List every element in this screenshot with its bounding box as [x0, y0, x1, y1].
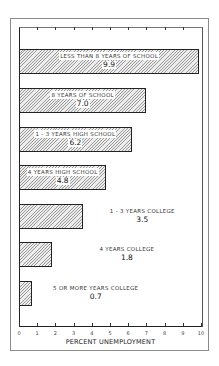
x-tick-mark: [165, 323, 166, 326]
category-label: LESS THAN 8 YEARS OF SCHOOL: [59, 52, 159, 60]
value-label: 6.2: [68, 139, 82, 147]
category-label: 4 YEARS HIGH SCHOOL: [27, 168, 99, 176]
x-tick-label: 10: [198, 330, 204, 336]
value-label: 3.5: [135, 216, 149, 224]
x-tick-mark: [201, 323, 202, 326]
bar-label: 1 - 3 YEARS COLLEGE3.5: [85, 207, 200, 224]
category-label: 1 - 3 YEARS COLLEGE: [109, 207, 176, 215]
bar: [19, 242, 52, 267]
x-tick-label: 1: [36, 330, 39, 336]
x-tick-mark: [92, 323, 93, 326]
category-label: 5 OR MORE YEARS COLLEGE: [52, 284, 139, 292]
x-tick-mark: [128, 323, 129, 326]
x-tick-mark-top: [128, 27, 129, 30]
bar-label: 4 YEARS HIGH SCHOOL4.8: [19, 168, 106, 185]
x-tick-label: 4: [90, 330, 93, 336]
x-tick-label: 8: [163, 330, 166, 336]
x-tick-mark: [183, 323, 184, 326]
category-label: 8 YEARS OF SCHOOL: [50, 91, 114, 99]
x-tick-mark-top: [165, 27, 166, 30]
x-tick-mark: [19, 323, 20, 326]
x-tick-mark-top: [74, 27, 75, 30]
bar: [19, 281, 32, 306]
x-tick-mark-top: [183, 27, 184, 30]
category-label: 1 - 3 YEARS HIGH SCHOOL: [34, 130, 116, 138]
bar-label: 4 YEARS COLLEGE1.8: [54, 245, 200, 262]
bar-label: LESS THAN 8 YEARS OF SCHOOL9.9: [19, 52, 199, 69]
value-label: 1.8: [120, 254, 134, 262]
x-tick-label: 9: [181, 330, 184, 336]
x-tick-mark-top: [110, 27, 111, 30]
bar: [19, 204, 83, 229]
x-tick-label: 3: [72, 330, 75, 336]
x-axis-line: [19, 326, 202, 327]
x-tick-mark-top: [92, 27, 93, 30]
x-tick-label: 0: [17, 330, 20, 336]
value-label: 0.7: [89, 293, 103, 301]
x-tick-mark: [146, 323, 147, 326]
x-tick-label: 7: [145, 330, 148, 336]
category-label: 4 YEARS COLLEGE: [98, 245, 155, 253]
value-label: 9.9: [102, 61, 116, 69]
x-axis-title: PERCENT UNEMPLOYMENT: [19, 338, 202, 346]
x-tick-mark: [74, 323, 75, 326]
x-tick-label: 2: [54, 330, 57, 336]
value-label: 7.0: [76, 100, 90, 108]
x-tick-label: 5: [108, 330, 111, 336]
x-tick-mark-top: [37, 27, 38, 30]
x-tick-label: 6: [127, 330, 130, 336]
bar-label: 5 OR MORE YEARS COLLEGE0.7: [36, 284, 156, 301]
x-tick-mark-top: [146, 27, 147, 30]
bar-label: 1 - 3 YEARS HIGH SCHOOL6.2: [19, 130, 132, 147]
value-label: 4.8: [56, 177, 70, 185]
bar-label: 8 YEARS OF SCHOOL7.0: [19, 91, 146, 108]
x-tick-mark: [55, 323, 56, 326]
x-tick-mark: [110, 323, 111, 326]
x-tick-mark: [37, 323, 38, 326]
x-tick-mark-top: [55, 27, 56, 30]
